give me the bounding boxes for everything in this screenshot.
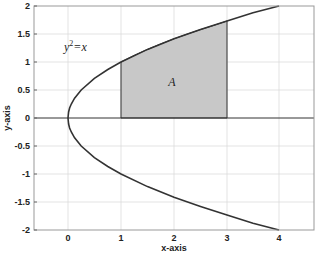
chart-canvas: 2 1.5 1 0.5 0 -0.5 -1 -1.5 -2 0 1 2 3 4 … (0, 0, 320, 258)
xtick-label: 4 (276, 233, 281, 243)
ytick-label: -0.5 (14, 141, 30, 151)
ytick-label: -1 (22, 169, 30, 179)
x-axis-label: x-axis (161, 243, 187, 253)
equation-label: y2=x (63, 39, 87, 54)
xtick-label: 3 (224, 233, 229, 243)
ytick-label: -2 (22, 225, 30, 235)
y-axis-label: y-axis (2, 105, 12, 131)
xtick-label: 1 (118, 233, 123, 243)
xtick-label: 0 (65, 233, 70, 243)
xtick-label: 2 (171, 233, 176, 243)
ytick-label: 1.5 (17, 29, 30, 39)
region-a-label: A (167, 75, 176, 89)
ytick-label: 1 (25, 57, 30, 67)
ytick-label: 0 (25, 113, 30, 123)
ytick-label: 0.5 (17, 85, 30, 95)
ytick-label: -1.5 (14, 197, 30, 207)
ytick-label: 2 (25, 1, 30, 11)
